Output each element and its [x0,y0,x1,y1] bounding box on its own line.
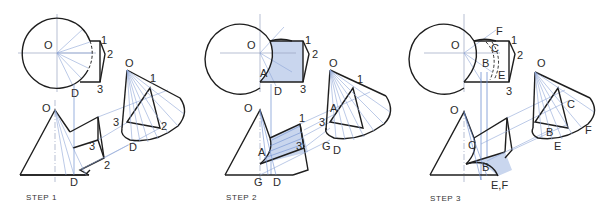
label-f-aux: F [585,125,592,136]
step-2-drawing [200,0,400,215]
label-d-aux: D [333,145,341,156]
label-o-front: O [42,103,51,114]
label-ef-front: E,F [491,180,508,191]
label-1-aux: 1 [150,73,156,84]
label-c-aux: C [567,99,575,110]
label-e-aux: E [554,141,561,152]
label-1-aux: 1 [357,74,363,85]
label-1-top: 1 [101,35,107,46]
label-a-front: A [258,147,265,158]
label-o-aux: O [125,58,134,69]
label-3-aux: 3 [319,117,325,128]
label-3-front: 3 [296,141,302,152]
label-a-top: A [260,68,267,79]
label-o-aux: O [537,58,546,69]
label-b-aux: B [546,127,553,138]
label-3-front-b: 3 [89,141,95,152]
label-o-top: O [247,40,256,51]
label-d-front: D [273,177,281,188]
label-o-front: O [450,105,459,116]
label-d-aux: D [129,142,137,153]
label-o-top: O [451,40,460,51]
label-c-front: C [468,140,476,151]
label-1-front: 1 [299,113,305,124]
step-3-panel: O F 1 C 2 B E 3 O C B E,F O C B F E STEP… [400,0,599,215]
label-d-top: D [274,86,282,97]
label-1-top: 1 [511,35,517,46]
label-2-top: 2 [312,49,318,60]
label-1-top: 1 [305,35,311,46]
label-f-top: F [496,26,503,37]
label-2-aux: 2 [161,121,167,132]
label-b-front: B [482,162,489,173]
label-e-top: E [498,70,505,81]
step-2-panel: O 1 2 3 A D O 1 A 3 G D O 1 A 3 G D STEP… [200,0,400,215]
step-1-panel: O 1 2 3 D O 3 3 2 D O 1 2 D STEP 1 [0,0,200,215]
label-d-front: D [70,177,78,188]
label-o-top: O [44,40,53,51]
label-c-top: C [491,43,499,54]
label-o-front: O [244,103,253,114]
label-3-front-a: 3 [113,117,119,128]
step-2-caption: STEP 2 [226,193,257,202]
label-3-top: 3 [506,86,512,97]
label-a-aux: A [330,103,337,114]
label-g-front: G [254,177,263,188]
label-g-aux: G [322,141,331,152]
label-2-top: 2 [107,49,113,60]
label-o-aux: O [329,58,338,69]
step-3-caption: STEP 3 [430,194,461,203]
label-3-top: 3 [300,84,306,95]
step-1-drawing [0,0,200,215]
label-3-top: 3 [97,84,103,95]
label-2-top: 2 [517,50,523,61]
label-2-front: 2 [104,160,110,171]
label-b-top: B [482,58,489,69]
step-1-caption: STEP 1 [26,193,57,202]
label-d-top: D [71,88,79,99]
